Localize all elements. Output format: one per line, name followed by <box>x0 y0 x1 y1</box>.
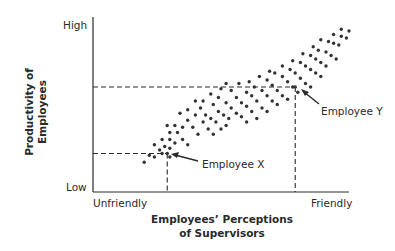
data-point <box>304 64 307 67</box>
data-point <box>273 71 276 74</box>
x-tick-high: Friendly <box>311 197 352 209</box>
data-point <box>196 133 199 136</box>
y-axis-label-line1: Productivity of <box>23 68 36 156</box>
data-point <box>219 87 222 90</box>
data-points <box>143 28 351 164</box>
data-point <box>276 103 279 106</box>
data-point <box>340 28 343 31</box>
data-point <box>332 33 335 36</box>
data-point <box>260 106 263 109</box>
data-point <box>186 119 189 122</box>
data-point <box>214 120 217 123</box>
data-point <box>255 99 258 102</box>
data-point <box>209 117 212 120</box>
data-point <box>335 57 338 60</box>
data-point <box>173 141 176 144</box>
data-point <box>299 61 302 64</box>
data-point <box>143 161 146 164</box>
data-point <box>201 99 204 102</box>
data-point <box>345 36 348 39</box>
data-point <box>176 131 179 134</box>
data-point <box>248 80 251 83</box>
data-point <box>250 110 253 113</box>
scatter-diagram: High Low Unfriendly Friendly Employee X … <box>0 0 395 251</box>
y-axis-label-line2: Employees <box>36 68 49 156</box>
data-point <box>207 127 210 130</box>
data-point <box>314 57 317 60</box>
data-point <box>296 91 299 94</box>
data-point <box>204 113 207 116</box>
data-point <box>235 96 238 99</box>
data-point <box>194 113 197 116</box>
data-point <box>209 92 212 95</box>
data-point <box>227 117 230 120</box>
annotation-employee-y: Employee Y <box>321 105 383 117</box>
data-point <box>224 124 227 127</box>
data-point <box>265 78 268 81</box>
data-point <box>186 143 189 146</box>
data-point <box>160 138 163 141</box>
data-point <box>268 70 271 73</box>
x-tick-low: Unfriendly <box>93 197 147 209</box>
data-point <box>304 82 307 85</box>
data-point <box>301 52 304 55</box>
data-point <box>260 89 263 92</box>
data-point <box>168 138 171 141</box>
data-point <box>219 127 222 130</box>
y-axis-label: Productivity of Employees <box>23 68 49 156</box>
data-point <box>178 112 181 115</box>
data-point <box>186 108 189 111</box>
data-point <box>201 120 204 123</box>
data-point <box>276 89 279 92</box>
data-point <box>258 75 261 78</box>
data-point <box>158 148 161 151</box>
data-point <box>168 147 171 150</box>
arrow-employee-y <box>301 89 319 104</box>
data-point <box>217 96 220 99</box>
data-point <box>327 40 330 43</box>
data-point <box>230 106 233 109</box>
data-point <box>224 82 227 85</box>
data-point <box>237 82 240 85</box>
data-point <box>153 143 156 146</box>
data-point <box>230 89 233 92</box>
data-point <box>148 154 151 157</box>
data-point <box>332 42 335 45</box>
data-point <box>324 64 327 67</box>
data-point <box>337 43 340 46</box>
data-point <box>324 50 327 53</box>
data-point <box>286 98 289 101</box>
data-point <box>347 29 350 32</box>
data-point <box>281 64 284 67</box>
arrow-employee-x <box>171 152 198 161</box>
data-point <box>281 94 284 97</box>
data-point <box>265 94 268 97</box>
x-axis-label-line1: Employees’ Perceptions <box>151 212 293 226</box>
data-point <box>291 59 294 62</box>
data-point <box>168 155 171 158</box>
data-point <box>199 106 202 109</box>
data-point <box>212 103 215 106</box>
data-point <box>235 112 238 115</box>
data-point <box>163 145 166 148</box>
data-point <box>217 110 220 113</box>
data-point <box>245 105 248 108</box>
y-tick-high: High <box>63 19 87 31</box>
x-axis-label-line2: of Supervisors <box>151 226 293 240</box>
data-point <box>212 133 215 136</box>
data-point <box>314 71 317 74</box>
data-point <box>329 54 332 57</box>
data-point <box>245 120 248 123</box>
data-point <box>222 113 225 116</box>
data-point <box>319 61 322 64</box>
x-axis-label: Employees’ Perceptions of Supervisors <box>151 212 293 240</box>
data-point <box>288 68 291 71</box>
data-point <box>294 71 297 74</box>
data-point <box>194 99 197 102</box>
data-point <box>240 115 243 118</box>
data-point <box>281 75 284 78</box>
data-point <box>240 101 243 104</box>
data-point <box>309 85 312 88</box>
data-point <box>173 124 176 127</box>
highlighted-employee-point <box>293 85 297 89</box>
